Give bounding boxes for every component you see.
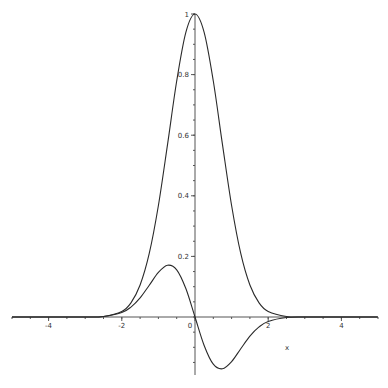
y-tick-label: 0.4 bbox=[178, 192, 190, 200]
x-tick-label: 0 bbox=[188, 322, 192, 330]
y-tick-label: 0.6 bbox=[178, 132, 190, 140]
x-tick-label: -2 bbox=[118, 322, 125, 330]
x-tick-label: 4 bbox=[339, 322, 344, 330]
y-tick-label: 1 bbox=[185, 11, 189, 19]
y-tick-label: 0.2 bbox=[178, 253, 189, 261]
x-tick-label: 2 bbox=[266, 322, 270, 330]
line-chart: -4-20240.20.40.60.81 x bbox=[0, 0, 388, 388]
x-axis-label: x bbox=[285, 344, 289, 352]
y-tick-label: 0.8 bbox=[178, 71, 189, 79]
x-tick-label: -4 bbox=[45, 322, 53, 330]
